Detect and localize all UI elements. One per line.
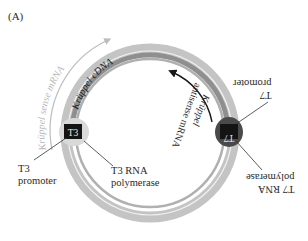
t7-marker-label: T7 (223, 133, 234, 143)
plasmid-svg: Krüppel sense mRNA Krüppel cDNA Krüppel … (0, 0, 308, 241)
t7-promoter-callout (236, 102, 268, 124)
t7-polymerase-callout (236, 141, 262, 170)
t7-promoter-line1: T7 (233, 89, 272, 101)
t7-polymerase-line2: polymerase (246, 171, 294, 183)
t7-polymerase-label: T7 RNA polymerase (246, 171, 294, 195)
panel-label: (A) (8, 10, 23, 22)
t7-promoter-line2: promoter (233, 77, 272, 89)
t3-polymerase-line2: polymerase (111, 177, 159, 189)
t7-promoter-label: T7 promoter (233, 77, 272, 101)
t3-polymerase-callout (84, 141, 113, 166)
t3-promoter-line2: promoter (18, 175, 57, 187)
t3-polymerase-label: T3 RNA polymerase (111, 165, 159, 189)
t3-promoter-line1: T3 (18, 163, 57, 175)
t3-promoter-label: T3 promoter (18, 163, 57, 187)
t7-polymerase-line1: T7 RNA (246, 183, 294, 195)
plasmid-diagram: Krüppel sense mRNA Krüppel cDNA Krüppel … (0, 0, 308, 241)
t3-marker-label: T3 (68, 128, 79, 138)
t3-polymerase-line1: T3 RNA (111, 165, 159, 177)
